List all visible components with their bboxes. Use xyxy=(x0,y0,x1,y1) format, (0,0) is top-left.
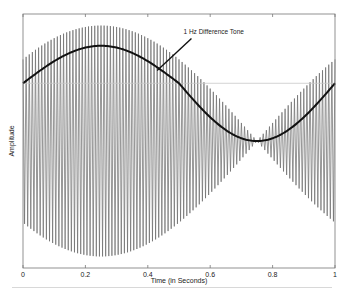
signal-layer xyxy=(23,26,335,257)
beat-frequency-chart: 00.20.40.60.81 Time (in Seconds) Amplitu… xyxy=(0,0,344,294)
y-axis-label: Amplitude xyxy=(8,125,16,156)
x-axis-label: Time (in Seconds) xyxy=(151,277,208,285)
annotation-arrow xyxy=(157,38,191,70)
divider xyxy=(12,287,332,288)
beating-signal xyxy=(23,26,335,257)
x-tick-label: 0.8 xyxy=(268,271,278,278)
x-tick-label: 0.2 xyxy=(81,271,91,278)
annotation-label: 1 Hz Difference Tone xyxy=(183,28,244,35)
x-tick-label: 1 xyxy=(333,271,337,278)
x-tick-label: 0 xyxy=(21,271,25,278)
